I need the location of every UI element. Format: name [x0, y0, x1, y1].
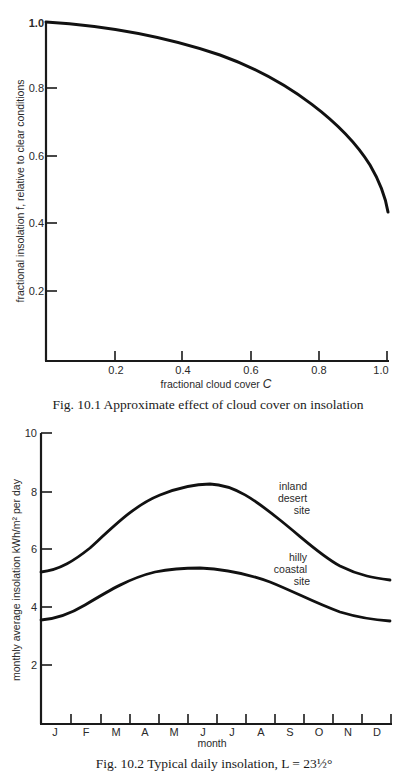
fig2-month-label: O: [315, 726, 324, 738]
fig2-x-axis-title: month: [197, 737, 226, 749]
fig1-ytick-label: 0.8: [29, 82, 44, 94]
fig1-xtick-label: 0.4: [175, 364, 190, 376]
fig2-month-label: M: [111, 726, 120, 738]
fig1-y-axis-title: fractional insolation f, relative to cle…: [14, 80, 26, 303]
fig1-chart: 1.0 0.8 0.6 0.4 0.2 0.2 0.4 0.6 0.8 1.0 …: [14, 17, 389, 412]
fig1-ytick-label: 0.6: [29, 150, 44, 162]
fig2-ytick-label: 4: [31, 601, 37, 613]
fig2-month-label: D: [373, 726, 381, 738]
fig1-xtick-label: 0.8: [311, 364, 326, 376]
fig1-ytick-label: 1.0: [29, 17, 44, 29]
fig2-label-hilly-coastal: hilly coastal site: [274, 551, 310, 587]
fig2-x-ticks: [71, 714, 391, 724]
fig2-ytick-label: 6: [31, 543, 37, 555]
fig2-month-label: N: [344, 726, 352, 738]
fig1-y-ticks: [46, 88, 57, 291]
fig2-ytick-label: 2: [31, 659, 37, 671]
fig1-xtick-label: 1.0: [373, 364, 388, 376]
fig2-y-ticks: [41, 433, 52, 665]
figure-page: 1.0 0.8 0.6 0.4 0.2 0.2 0.4 0.6 0.8 1.0 …: [0, 0, 406, 777]
fig1-ytick-label: 0.2: [29, 285, 44, 297]
fig2-caption: Fig. 10.2 Typical daily insolation, L = …: [96, 756, 333, 771]
fig2-ytick-label: 10: [25, 427, 37, 439]
fig1-xtick-label: 0.2: [108, 364, 123, 376]
fig2-ytick-label: 8: [31, 486, 37, 498]
fig1-ytick-label: 0.4: [29, 217, 44, 229]
fig2-chart: 10 8 6 4 2 J F M A M J J A S O N: [10, 427, 392, 771]
fig2-label-inland-desert: inland desert site: [278, 480, 310, 516]
fig2-y-axis-title: monthly average insolation kWh/m² per da…: [10, 478, 22, 681]
fig2-month-label: A: [141, 726, 149, 738]
fig1-xtick-label: 0.6: [243, 364, 258, 376]
fig1-x-ticks: [115, 351, 387, 361]
fig2-month-label: J: [52, 726, 58, 738]
fig2-month-label: F: [83, 726, 90, 738]
fig1-caption: Fig. 10.1 Approximate effect of cloud co…: [53, 397, 364, 412]
fig2-month-label: M: [169, 726, 178, 738]
fig1-curve: [46, 22, 388, 212]
fig2-inland-desert-curve: [41, 484, 390, 580]
fig2-hilly-coastal-curve: [41, 568, 390, 621]
fig1-x-axis-title: fractional cloud cover C: [161, 377, 272, 391]
fig2-month-label: S: [286, 726, 293, 738]
fig2-month-label: A: [257, 726, 265, 738]
fig2-month-label: J: [229, 726, 235, 738]
